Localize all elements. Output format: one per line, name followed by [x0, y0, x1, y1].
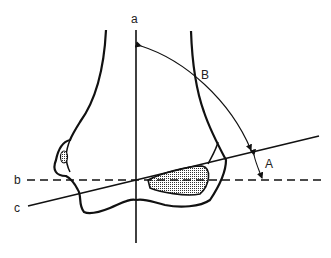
label-c: c [14, 201, 20, 215]
elbow-angle-diagram: a b c A B [0, 0, 331, 258]
label-angle-B: B [201, 68, 209, 82]
angle-B-arc [141, 46, 251, 150]
label-angle-A: A [265, 157, 273, 171]
line-c [28, 136, 319, 206]
bone-outline-left [54, 30, 136, 213]
angle-A-arrow [254, 155, 262, 178]
label-a: a [131, 12, 138, 26]
medial-epicondyle-shaded [61, 151, 68, 163]
label-b: b [14, 173, 21, 187]
